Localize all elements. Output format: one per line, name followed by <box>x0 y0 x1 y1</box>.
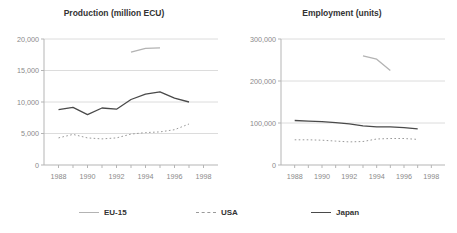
x-tick-label: 1990 <box>80 172 96 181</box>
chart-panels: Production (million ECU) 05,00010,00015,… <box>0 0 457 198</box>
eu15-line-swatch-icon <box>79 212 99 213</box>
legend-label-usa: USA <box>221 208 238 217</box>
x-tick-label: 1992 <box>341 172 357 181</box>
chart-legend: EU-15 USA Japan <box>0 204 457 224</box>
legend-item-usa: USA <box>196 204 238 220</box>
y-tick-label: 0 <box>272 161 276 170</box>
series-eu-15-line <box>363 56 390 71</box>
dual-line-chart-figure: Production (million ECU) 05,00010,00015,… <box>0 0 457 233</box>
legend-item-japan: Japan <box>311 204 359 220</box>
x-tick-label: 1996 <box>396 172 412 181</box>
x-tick-label: 1996 <box>167 172 183 181</box>
x-tick-label: 1998 <box>196 172 212 181</box>
production-panel: Production (million ECU) 05,00010,00015,… <box>0 0 228 198</box>
production-chart: 05,00010,00015,00020,0001988199019921994… <box>0 26 228 198</box>
employment-chart: 0100,000200,000300,000198819901992199419… <box>228 26 456 198</box>
y-tick-label: 0 <box>35 161 39 170</box>
series-eu-15-line <box>131 48 160 52</box>
series-usa-line <box>295 139 418 142</box>
production-chart-title: Production (million ECU) <box>0 0 228 26</box>
x-tick-label: 1992 <box>109 172 125 181</box>
employment-panel: Employment (units) 0100,000200,000300,00… <box>228 0 456 198</box>
usa-dashed-line-swatch-icon <box>196 212 216 213</box>
y-tick-label: 15,000 <box>17 66 39 75</box>
y-tick-label: 20,000 <box>17 35 39 44</box>
legend-label-japan: Japan <box>336 208 359 217</box>
series-japan-line <box>295 121 418 129</box>
legend-label-eu15: EU-15 <box>104 208 127 217</box>
employment-chart-title: Employment (units) <box>228 0 456 26</box>
x-tick-label: 1988 <box>51 172 67 181</box>
x-tick-label: 1988 <box>287 172 303 181</box>
series-usa-line <box>59 124 190 139</box>
x-tick-label: 1990 <box>314 172 330 181</box>
y-tick-label: 5,000 <box>21 129 39 138</box>
series-japan-line <box>59 92 190 115</box>
x-tick-label: 1994 <box>138 172 154 181</box>
x-tick-label: 1994 <box>369 172 385 181</box>
y-tick-label: 300,000 <box>250 35 276 44</box>
y-tick-label: 10,000 <box>17 98 39 107</box>
x-tick-label: 1998 <box>423 172 439 181</box>
y-tick-label: 200,000 <box>250 77 276 86</box>
japan-line-swatch-icon <box>311 212 331 213</box>
legend-item-eu15: EU-15 <box>79 204 127 220</box>
y-tick-label: 100,000 <box>250 119 276 128</box>
